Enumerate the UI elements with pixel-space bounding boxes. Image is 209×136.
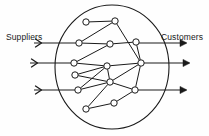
network-boundary-ellipse: [55, 5, 169, 129]
edge-n1-n2: [89, 21, 112, 22]
node-right-lower: [132, 87, 138, 93]
edge-n7-n10: [108, 69, 110, 79]
customers-label: Customers: [161, 33, 203, 42]
node-left-2: [71, 60, 77, 66]
edge-n14-n12: [117, 92, 133, 102]
node-bottom-mid: [111, 100, 117, 106]
node-left-3: [72, 72, 78, 78]
customer-flow-2-arrow-icon: [183, 59, 190, 66]
suppliers-label: Suppliers: [6, 33, 42, 42]
network-diagram-svg: [0, 0, 209, 136]
edge-n13-n10: [88, 84, 108, 106]
node-left-4: [75, 87, 81, 93]
edge-n12-n8: [136, 66, 141, 87]
edge-n10-n8: [113, 65, 139, 81]
node-top-left: [83, 19, 89, 25]
edge-n3-n4: [82, 43, 107, 44]
node-top-mid: [112, 18, 118, 24]
network-nodes-layer: [71, 18, 144, 112]
edge-n11-n7: [80, 68, 104, 88]
edge-n4-n6: [77, 45, 107, 61]
node-right-upper: [133, 39, 139, 45]
customer-flow-3-arrow-icon: [180, 86, 187, 93]
node-mid-lower: [107, 79, 113, 85]
node-left-1: [76, 40, 82, 46]
boundary-layer: [55, 5, 169, 129]
supply-network-figure: Suppliers Customers: [0, 0, 209, 136]
node-right-hub: [138, 60, 144, 66]
node-mid-upper: [107, 41, 113, 47]
edge-n7-n8: [110, 63, 138, 65]
edge-n6-n7: [77, 63, 104, 65]
edge-n13-n14: [89, 104, 111, 109]
edge-n4-n5: [113, 42, 133, 44]
node-center-hub: [104, 63, 110, 69]
edge-n10-n12: [113, 83, 132, 89]
node-bottom-left: [83, 106, 89, 112]
edge-n9-n7: [78, 67, 104, 74]
